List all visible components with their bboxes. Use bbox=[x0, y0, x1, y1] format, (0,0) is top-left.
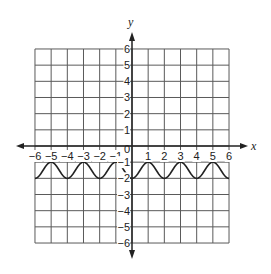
y-axis-label: y bbox=[127, 15, 134, 29]
x-axis-label: x bbox=[250, 139, 257, 153]
x-tick-label: −5 bbox=[45, 150, 58, 162]
y-tick-label: −4 bbox=[117, 205, 130, 217]
x-tick-label: 5 bbox=[210, 150, 216, 162]
y-axis-down-arrow-icon bbox=[129, 250, 135, 259]
x-tick-label: 0 bbox=[124, 143, 130, 155]
y-tick-label: 1 bbox=[124, 124, 130, 136]
y-tick-label: −2 bbox=[117, 172, 130, 184]
x-tick-label: 4 bbox=[194, 150, 200, 162]
x-axis-right-arrow-icon bbox=[240, 143, 248, 149]
y-tick-label: 6 bbox=[124, 43, 130, 55]
x-tick-label: 2 bbox=[161, 150, 167, 162]
x-axis-left-arrow-icon bbox=[16, 143, 24, 149]
x-tick-label: −2 bbox=[93, 150, 106, 162]
y-tick-label: −6 bbox=[117, 237, 130, 249]
x-tick-label: 1 bbox=[145, 150, 151, 162]
y-tick-label: −3 bbox=[117, 189, 130, 201]
y-tick-label: −5 bbox=[117, 221, 130, 233]
function-graph: −6−5−4−3−2−10123456 −6−5−4−3−2−1123456 x… bbox=[0, 0, 271, 274]
x-tick-label: −3 bbox=[77, 150, 90, 162]
y-tick-label: 2 bbox=[124, 108, 130, 120]
x-tick-label: −4 bbox=[61, 150, 74, 162]
x-tick-label: 3 bbox=[177, 150, 183, 162]
y-tick-label: 3 bbox=[124, 91, 130, 103]
y-tick-label: −1 bbox=[117, 156, 130, 168]
y-tick-label: 4 bbox=[124, 75, 130, 87]
y-axis-up-arrow-icon bbox=[129, 32, 135, 41]
x-tick-label: −6 bbox=[29, 150, 42, 162]
y-tick-label: 5 bbox=[124, 59, 130, 71]
x-tick-label: 6 bbox=[226, 150, 232, 162]
